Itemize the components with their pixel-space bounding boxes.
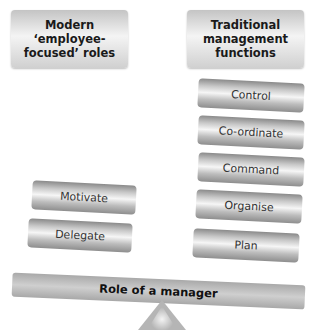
block-delegate-label: Delegate (55, 228, 105, 244)
block-organise: Organise (195, 189, 302, 224)
header-modern-roles-label: Modern ‘employee-focused’ roles (11, 18, 128, 60)
block-command: Command (197, 152, 304, 187)
block-control-label: Control (231, 88, 271, 103)
block-coordinate-label: Co-ordinate (218, 124, 283, 140)
block-control: Control (197, 78, 304, 113)
header-traditional-functions: Traditional management functions (187, 10, 304, 68)
block-plan: Plan (192, 228, 299, 263)
block-delegate: Delegate (27, 218, 132, 252)
block-command-label: Command (222, 162, 279, 178)
block-motivate-label: Motivate (60, 190, 109, 205)
block-plan-label: Plan (234, 238, 258, 252)
block-coordinate: Co-ordinate (197, 115, 304, 150)
seesaw-beam-label: Role of a manager (99, 281, 218, 300)
block-motivate: Motivate (31, 180, 136, 214)
block-organise-label: Organise (224, 199, 274, 215)
header-modern-roles: Modern ‘employee-focused’ roles (11, 10, 128, 68)
header-traditional-functions-label: Traditional management functions (187, 18, 304, 60)
